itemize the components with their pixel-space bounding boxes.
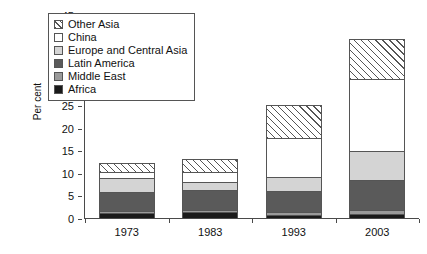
chart-legend: Other AsiaChinaEurope and Central AsiaLa… bbox=[48, 13, 195, 101]
legend-item: Middle East bbox=[54, 70, 187, 83]
y-axis-tick-label: 25 bbox=[62, 100, 74, 112]
y-axis-tick-label: 5 bbox=[68, 190, 74, 202]
x-axis-tick-mark bbox=[419, 219, 420, 223]
bar-segment-china bbox=[99, 172, 155, 179]
bar-segment-other-asia bbox=[349, 39, 405, 79]
bar-segment-europe-and-central-asia bbox=[182, 182, 238, 191]
bar-segment-middle-east bbox=[266, 212, 322, 215]
legend-swatch-icon bbox=[54, 72, 63, 81]
x-axis-tick-mark bbox=[336, 219, 337, 223]
legend-item-label: Middle East bbox=[68, 70, 125, 83]
bar-segment-europe-and-central-asia bbox=[99, 178, 155, 192]
x-axis-tick-mark bbox=[252, 219, 253, 223]
bar-segment-other-asia bbox=[99, 163, 155, 172]
x-axis-tick-label: 1983 bbox=[198, 226, 222, 238]
legend-item-label: Other Asia bbox=[68, 18, 119, 31]
legend-swatch-icon bbox=[54, 59, 63, 68]
legend-item-label: Latin America bbox=[68, 57, 135, 70]
legend-item: Latin America bbox=[54, 57, 187, 70]
bar-segment-latin-america bbox=[266, 191, 322, 212]
bar-segment-china bbox=[266, 138, 322, 177]
y-axis-tick-label: 15 bbox=[62, 145, 74, 157]
legend-item-label: China bbox=[68, 31, 97, 44]
bar-1973 bbox=[99, 163, 155, 219]
legend-swatch-icon bbox=[54, 46, 63, 55]
y-axis-tick-mark bbox=[78, 196, 82, 197]
legend-item: Other Asia bbox=[54, 18, 187, 31]
legend-item: Africa bbox=[54, 83, 187, 96]
y-axis-tick-label: 0 bbox=[68, 213, 74, 225]
bar-segment-china bbox=[182, 172, 238, 182]
x-axis-tick-label: 2003 bbox=[365, 226, 389, 238]
legend-swatch-icon bbox=[54, 33, 63, 42]
legend-item-label: Africa bbox=[68, 83, 96, 96]
y-axis-tick-mark bbox=[78, 219, 82, 220]
x-axis-tick-mark bbox=[85, 219, 86, 223]
y-axis-tick-mark bbox=[78, 174, 82, 175]
bar-segment-latin-america bbox=[182, 190, 238, 209]
legend-item-label: Europe and Central Asia bbox=[68, 44, 187, 57]
y-axis-tick-mark bbox=[78, 151, 82, 152]
bar-segment-middle-east bbox=[99, 211, 155, 213]
bar-segment-china bbox=[349, 79, 405, 151]
x-axis-tick-label: 1973 bbox=[115, 226, 139, 238]
x-axis-tick-label: 1993 bbox=[282, 226, 306, 238]
stacked-bar-chart: Per cent 051015202530354045 Other AsiaCh… bbox=[0, 0, 427, 254]
bar-segment-europe-and-central-asia bbox=[266, 177, 322, 191]
legend-swatch-icon bbox=[54, 85, 63, 94]
bar-segment-other-asia bbox=[182, 159, 238, 171]
bar-1983 bbox=[182, 159, 238, 219]
x-axis-tick-mark bbox=[169, 219, 170, 223]
bar-segment-middle-east bbox=[349, 210, 405, 214]
bar-segment-europe-and-central-asia bbox=[349, 151, 405, 180]
legend-item: Europe and Central Asia bbox=[54, 44, 187, 57]
legend-item: China bbox=[54, 31, 187, 44]
y-axis-tick-mark bbox=[78, 129, 82, 130]
legend-swatch-icon bbox=[54, 20, 63, 29]
bar-segment-other-asia bbox=[266, 105, 322, 137]
y-axis-tick-mark bbox=[78, 106, 82, 107]
y-axis-tick-label: 10 bbox=[62, 168, 74, 180]
y-axis-tick-label: 20 bbox=[62, 123, 74, 135]
bar-segment-latin-america bbox=[99, 192, 155, 211]
bar-segment-middle-east bbox=[182, 210, 238, 213]
bar-2003 bbox=[349, 39, 405, 219]
bar-1993 bbox=[266, 105, 322, 219]
bar-segment-latin-america bbox=[349, 180, 405, 210]
